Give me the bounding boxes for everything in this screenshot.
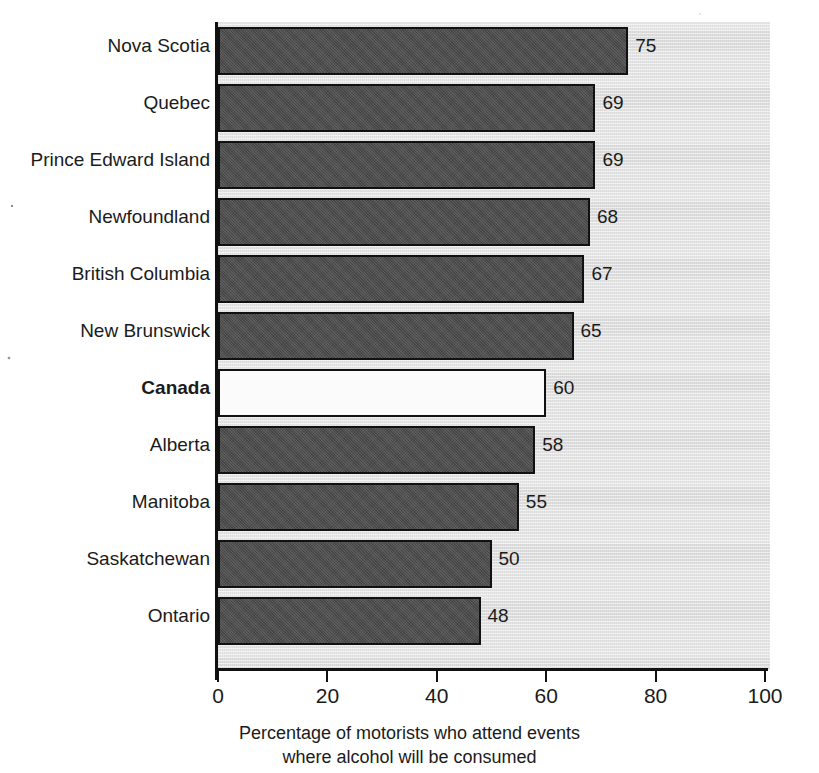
bar [218, 84, 595, 132]
bar-value-label: 67 [591, 250, 612, 298]
bar-row: Manitoba55 [0, 478, 819, 535]
y-axis-line [215, 22, 218, 680]
bar [218, 426, 535, 474]
bar [218, 141, 595, 189]
category-label: Canada [141, 364, 210, 412]
category-label: Nova Scotia [108, 22, 210, 70]
category-label: Alberta [150, 421, 210, 469]
bar-row: Canada60 [0, 364, 819, 421]
bar [218, 540, 492, 588]
bar-value-label: 55 [526, 478, 547, 526]
bar [218, 312, 574, 360]
bar-row: British Columbia67 [0, 250, 819, 307]
bar [218, 369, 546, 417]
bar [218, 255, 584, 303]
x-axis-tick [436, 671, 438, 682]
x-axis-tick-label: 60 [535, 684, 558, 708]
x-axis-tick [217, 671, 219, 682]
category-label: Quebec [143, 79, 210, 127]
category-label: Manitoba [132, 478, 210, 526]
category-label: Newfoundland [89, 193, 210, 241]
x-axis-tick-label: 0 [212, 684, 224, 708]
x-axis-tick-label: 100 [747, 684, 782, 708]
x-axis-tick-label: 20 [316, 684, 339, 708]
category-label: Ontario [148, 592, 210, 640]
bar-value-label: 48 [488, 592, 509, 640]
x-axis-line [215, 668, 768, 671]
bar-row: Ontario48 [0, 592, 819, 649]
category-label: Saskatchewan [86, 535, 210, 583]
bar-value-label: 69 [602, 79, 623, 127]
bar [218, 483, 519, 531]
bar [218, 198, 590, 246]
bar [218, 597, 481, 645]
caption-line-2: where alcohol will be consumed [0, 745, 819, 769]
bar-value-label: 60 [553, 364, 574, 412]
category-label: New Brunswick [80, 307, 210, 355]
x-axis-tick-label: 80 [644, 684, 667, 708]
bar-row: New Brunswick65 [0, 307, 819, 364]
bar-value-label: 50 [499, 535, 520, 583]
bar-row: Alberta58 [0, 421, 819, 478]
bar-row: Quebec69 [0, 79, 819, 136]
bar-row: Saskatchewan50 [0, 535, 819, 592]
bar-value-label: 69 [602, 136, 623, 184]
bar-row: Prince Edward Island69 [0, 136, 819, 193]
chart-caption: Percentage of motorists who attend event… [0, 721, 819, 769]
bar-value-label: 58 [542, 421, 563, 469]
x-axis-tick-label: 40 [425, 684, 448, 708]
category-label: Prince Edward Island [30, 136, 210, 184]
caption-line-1: Percentage of motorists who attend event… [0, 721, 819, 745]
bar-value-label: 65 [581, 307, 602, 355]
x-axis-tick [655, 671, 657, 682]
x-axis-tick [545, 671, 547, 682]
bar-row: Newfoundland68 [0, 193, 819, 250]
bar-value-label: 68 [597, 193, 618, 241]
x-axis-tick [764, 671, 766, 682]
bar [218, 27, 628, 75]
x-axis-tick [326, 671, 328, 682]
bar-row: Nova Scotia75 [0, 22, 819, 79]
category-label: British Columbia [72, 250, 210, 298]
bar-value-label: 75 [635, 22, 656, 70]
bar-chart-figure: Nova Scotia75Quebec69Prince Edward Islan… [0, 0, 819, 773]
